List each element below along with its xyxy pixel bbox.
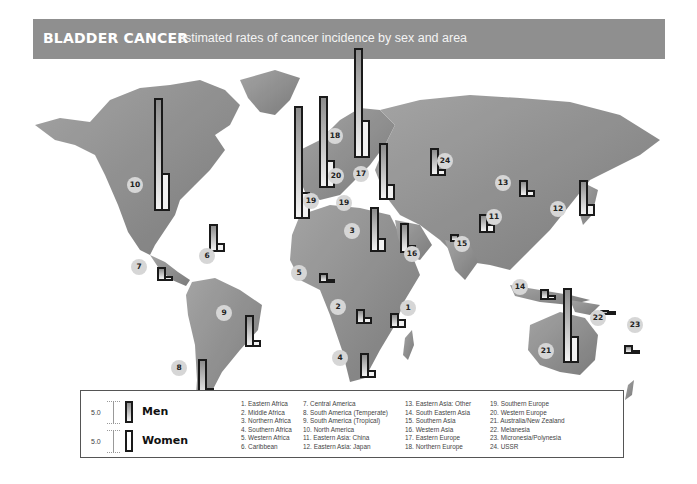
region-badge-8: 8: [171, 360, 187, 376]
madagascar-landmass: [403, 330, 414, 360]
scale-tick-bottom: [107, 452, 120, 454]
bar-women-region-5: [326, 279, 335, 283]
bar-women-region-4: [367, 370, 376, 378]
legend-region-item: 10. North America: [303, 426, 388, 435]
legend-region-item: 11. Eastern Asia: China: [303, 434, 388, 443]
legend-region-item: 13. Eastern Asia: Other: [405, 400, 471, 409]
bar-women-region-21: [570, 336, 579, 363]
scale-line-women: [113, 430, 114, 452]
region-badge-10: 10: [127, 177, 143, 193]
legend-region-item: 7. Central America: [303, 400, 388, 409]
greenland-landmass: [240, 70, 300, 115]
bar-women-region-10: [161, 173, 170, 211]
region-badge-23: 23: [627, 317, 643, 333]
bar-women-region-24: [437, 169, 446, 176]
bar-women-region-2: [363, 317, 372, 324]
bar-women-region-17: [386, 184, 395, 200]
region-badge-5: 5: [291, 265, 307, 281]
bar-women-region-7: [164, 276, 173, 281]
legend-region-item: 2. Middle Africa: [241, 409, 292, 418]
bar-women-region-11: [486, 224, 495, 233]
new-zealand-landmass: [625, 380, 634, 400]
region-badge-22: 22: [590, 310, 606, 326]
legend-box: 5.0 Men 5.0 Women 1. Eastern Africa 2. M…: [80, 390, 624, 458]
legend-region-item: 20. Western Europe: [490, 409, 565, 418]
region-badge-19a: 19: [303, 193, 319, 209]
region-badge-2: 2: [330, 299, 346, 315]
bar-women-region-22: [607, 311, 616, 315]
legend-women-row: 5.0 Women: [81, 428, 231, 458]
region-badge-24: 24: [437, 153, 453, 169]
region-badge-17: 17: [353, 166, 369, 182]
bar-women-region-1: [397, 319, 406, 328]
legend-region-column-1: 1. Eastern Africa 2. Middle Africa 3. No…: [241, 400, 292, 452]
bar-women-region-23: [631, 350, 640, 354]
legend-region-item: 22. Melanesia: [490, 426, 565, 435]
legend-region-item: 4. Southern Africa: [241, 426, 292, 435]
region-badge-12: 12: [550, 201, 566, 217]
bar-women-region-9: [252, 340, 261, 347]
legend-region-item: 23. Micronesia/Polynesia: [490, 434, 565, 443]
legend-region-item: 5. Western Africa: [241, 434, 292, 443]
legend-region-item: 17. Eastern Europe: [405, 434, 471, 443]
region-badge-19b: 19: [336, 195, 352, 211]
bar-women-region-14: [547, 295, 556, 300]
legend-region-column-4: 19. Southern Europe 20. Western Europe 2…: [490, 400, 565, 452]
legend-region-item: 19. Southern Europe: [490, 400, 565, 409]
bar-women-region-18: [361, 120, 370, 158]
region-badge-14: 14: [512, 279, 528, 295]
legend-region-item: 8. South America (Temperate): [303, 409, 388, 418]
legend-region-column-3: 13. Eastern Asia: Other 14. South Easter…: [405, 400, 471, 452]
region-badge-6: 6: [199, 248, 215, 264]
region-badge-20: 20: [328, 168, 344, 184]
legend-region-item: 15. Southern Asia: [405, 417, 471, 426]
legend-region-item: 12. Eastern Asia: Japan: [303, 443, 388, 452]
scale-value-men: 5.0: [91, 409, 101, 416]
legend-label-men: Men: [142, 405, 168, 418]
legend-region-item: 3. Northern Africa: [241, 417, 292, 426]
region-badge-16: 16: [404, 246, 420, 262]
scale-line-men: [113, 401, 114, 423]
legend-region-item: 6. Caribbean: [241, 443, 292, 452]
bar-women-region-3: [377, 238, 386, 252]
region-badge-13: 13: [495, 175, 511, 191]
legend-region-item: 24. USSR: [490, 443, 565, 452]
bar-women-region-6: [216, 243, 225, 252]
region-badge-18: 18: [327, 128, 343, 144]
legend-region-item: 14. South Eastern Asia: [405, 409, 471, 418]
legend-region-item: 9. South America (Tropical): [303, 417, 388, 426]
region-badge-21: 21: [538, 343, 554, 359]
bar-women-region-13: [526, 190, 535, 197]
legend-region-item: 21. Australia/New Zealand: [490, 417, 565, 426]
region-badge-3: 3: [344, 223, 360, 239]
legend-region-item: 16. Western Asia: [405, 426, 471, 435]
legend-region-item: 18. Northern Europe: [405, 443, 471, 452]
legend-region-item: 1. Eastern Africa: [241, 400, 292, 409]
region-badge-4: 4: [332, 350, 348, 366]
scale-value-women: 5.0: [91, 438, 101, 445]
region-badge-1: 1: [400, 300, 416, 316]
legend-swatch-women: [125, 430, 133, 452]
region-badge-11: 11: [486, 209, 502, 225]
scale-tick-bottom: [107, 423, 120, 425]
region-badge-9: 9: [216, 305, 232, 321]
region-badge-7: 7: [131, 259, 147, 275]
legend-region-column-2: 7. Central America 8. South America (Tem…: [303, 400, 388, 452]
legend-men-row: 5.0 Men: [81, 399, 231, 429]
central-america-landmass: [150, 255, 190, 286]
legend-swatch-men: [125, 401, 133, 423]
legend-label-women: Women: [142, 434, 188, 447]
bar-women-region-12: [586, 204, 595, 216]
region-badge-15: 15: [454, 236, 470, 252]
